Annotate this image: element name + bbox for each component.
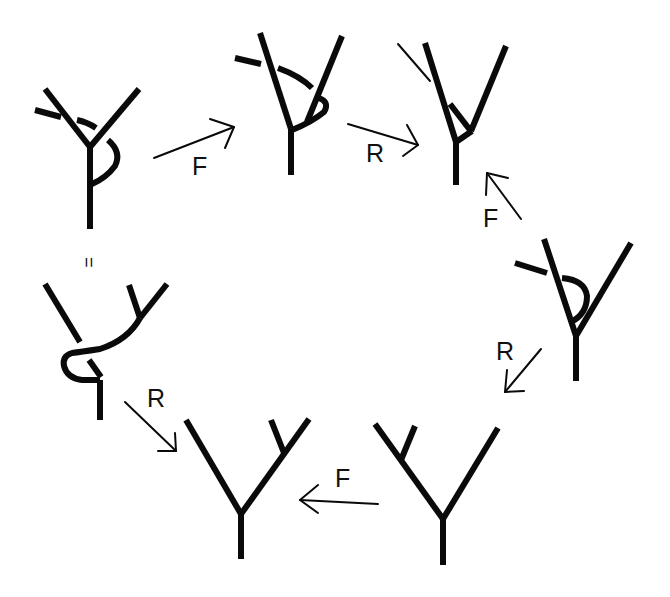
arrow-r-3: R xyxy=(125,384,176,451)
label-r-3: R xyxy=(147,384,165,412)
arrow-f-2: F xyxy=(483,173,521,232)
arrow-f-3: F xyxy=(300,464,378,513)
diagram-3 xyxy=(398,43,506,185)
label-r-1: R xyxy=(366,139,384,167)
arrow-r-1: R xyxy=(348,124,418,167)
label-r-2: R xyxy=(496,337,514,365)
equals-sign: = xyxy=(79,257,99,268)
label-f-3: F xyxy=(335,464,350,492)
diagram-1 xyxy=(35,89,139,229)
diagram-5 xyxy=(375,424,498,565)
arrow-f-1: F xyxy=(154,119,234,180)
move-cycle-diagram: F R F R xyxy=(0,0,670,597)
diagram-2 xyxy=(235,33,342,175)
arrow-r-2: R xyxy=(496,337,541,392)
label-f-2: F xyxy=(483,204,498,232)
label-f-1: F xyxy=(192,152,207,180)
diagram-6 xyxy=(186,419,309,559)
